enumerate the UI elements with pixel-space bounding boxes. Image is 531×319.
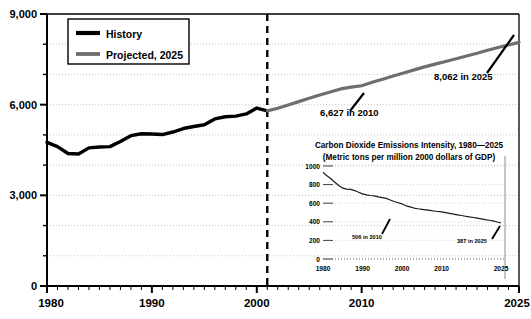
chart-canvas: 03,0006,0009,000198019902000201020256,62…: [0, 0, 531, 319]
y-tick-label: 3,000: [9, 189, 37, 201]
inset-x-tick-label: 2000: [395, 265, 410, 272]
inset-x-tick-label: 2010: [434, 265, 449, 272]
inset-series-line: [323, 173, 501, 224]
y-tick-label: 6,000: [9, 99, 37, 111]
x-tick-label: 2000: [244, 297, 270, 309]
co2-emissions-figure: 03,0006,0009,000198019902000201020256,62…: [0, 0, 531, 319]
inset-y-tick-label: 1000: [305, 163, 320, 170]
annotation-label-2010: 6,627 in 2010: [320, 107, 379, 118]
inset-y-tick-label: 800: [309, 181, 320, 188]
x-tick-label: 1990: [139, 297, 165, 309]
x-tick-label: 2025: [504, 297, 530, 309]
legend-label-history: History: [106, 28, 142, 40]
inset-y-tick-label: 0: [316, 256, 320, 263]
inset-y-tick-label: 600: [309, 200, 320, 207]
inset-annotation-leader-2025: [492, 226, 500, 239]
inset-annotation-leader-2010: [382, 219, 390, 234]
inset-subtitle: (Metric tons per million 2000 dollars of…: [323, 153, 496, 162]
annotation-label-2025: 8,062 in 2025: [434, 71, 493, 82]
inset-annotation-label-2010: 506 in 2010: [352, 234, 382, 240]
inset-x-tick-label: 2025: [494, 265, 509, 272]
x-tick-label: 2010: [349, 297, 375, 309]
inset-y-tick-label: 200: [309, 237, 320, 244]
y-tick-label: 9,000: [9, 8, 37, 20]
legend-label-projected: Projected, 2025: [106, 49, 183, 61]
annotation-leader-2025: [487, 35, 514, 73]
y-tick-label: 0: [31, 280, 37, 292]
inset-annotation-label-2025: 387 in 2025: [457, 238, 487, 244]
inset-x-tick-label: 1980: [316, 265, 331, 272]
inset-title: Carbon Dioxide Emissions Intensity, 1980…: [315, 141, 504, 150]
x-tick-label: 1980: [38, 297, 64, 309]
inset-y-tick-label: 400: [309, 218, 320, 225]
inset-x-tick-label: 1990: [355, 265, 370, 272]
series-line-history: [47, 108, 267, 154]
